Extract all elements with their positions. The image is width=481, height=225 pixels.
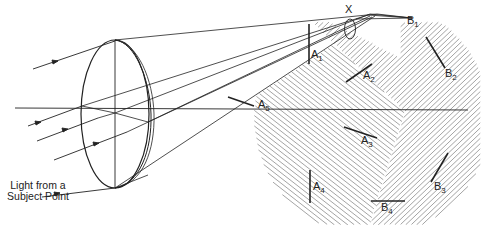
label-x: X	[345, 3, 353, 15]
label-a4: A4	[313, 180, 325, 195]
image-marks	[228, 37, 448, 203]
caption-light-from-subject-point: Light from a Subject Point	[4, 180, 72, 202]
label-b1: B1	[407, 14, 419, 29]
optics-diagram: X A1 A2 A3 A4 A5 B1 B2 B3 B4 Light from …	[0, 0, 481, 225]
label-b4: B4	[381, 201, 393, 216]
incoming-rays	[28, 41, 127, 197]
label-b2: B2	[445, 67, 457, 82]
hatch-lines	[254, 22, 480, 225]
optical-axis	[15, 108, 468, 110]
